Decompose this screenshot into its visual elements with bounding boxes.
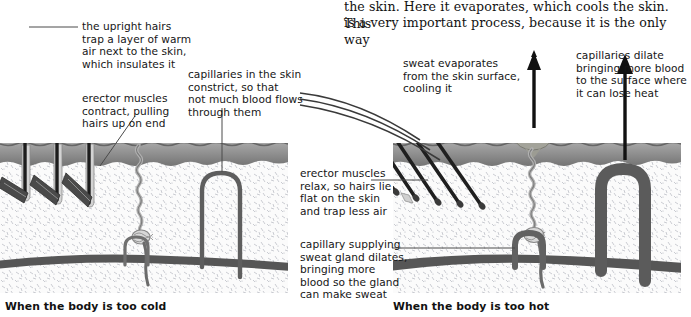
caption-too-cold: When the body is too cold bbox=[5, 300, 166, 313]
annotation-capillaries-dilate: capillaries dilate bringing more blood t… bbox=[576, 49, 691, 99]
annotation-upright-hairs: the upright hairs trap a layer of warm a… bbox=[82, 20, 232, 70]
annotation-sweat-evaporates: sweat evaporates from the skin surface, … bbox=[403, 57, 563, 95]
annotation-capillaries-constrict: capillaries in the skin constrict, so th… bbox=[188, 68, 348, 118]
annotation-erector-relax: erector muscles relax, so hairs lie flat… bbox=[300, 167, 415, 217]
caption-too-hot: When the body is too hot bbox=[393, 300, 549, 313]
annotation-capillary-supplying: capillary supplying sweat gland dilates,… bbox=[300, 238, 420, 301]
leader-tick-droplet bbox=[531, 50, 537, 57]
